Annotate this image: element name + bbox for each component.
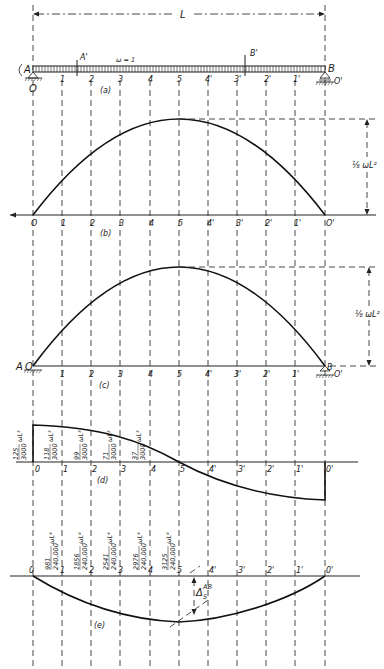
svg-text:4': 4': [205, 75, 212, 84]
svg-text:3': 3': [238, 566, 245, 575]
panel-a-beam: A' B' ω = 1 A B O' O 1 2 3 4 5 4' 3' 2' …: [19, 49, 343, 95]
svg-text:0: 0: [29, 566, 34, 575]
svg-text:3: 3: [118, 75, 123, 84]
svg-text:37: 37: [131, 451, 139, 460]
svg-text:4': 4': [209, 465, 216, 474]
svg-text:125: 125: [12, 448, 20, 460]
panel-d-slope-diagram: 0 1 2 3 4 5 4' 3' 2' 1' 0' (d) 3000 125 …: [12, 425, 359, 500]
caption-c: (c): [99, 381, 110, 390]
deflection-value-2: 240,000 1856 ωL⁴: [73, 532, 90, 570]
station-o-prime-a: O': [334, 77, 343, 86]
dim-arrow-up-icon: [192, 577, 197, 583]
svg-text:5: 5: [180, 465, 185, 474]
svg-text:2': 2': [265, 219, 272, 228]
panel-e-deflection-diagram: Δ AB 5 0 1 2 3 4 5 4' 3' 2' 1' 0' (e) 24…: [10, 532, 360, 630]
svg-text:ωL³: ωL³: [16, 430, 24, 442]
svg-text:5: 5: [177, 566, 182, 575]
station-o-a: O: [29, 83, 37, 94]
svg-text:2': 2': [267, 465, 274, 474]
svg-text:2': 2': [267, 566, 274, 575]
svg-text:1': 1': [296, 566, 303, 575]
slope-value-3: 3000 71 ωL³: [102, 430, 119, 460]
b-prime-label: B': [250, 49, 258, 58]
svg-text:4: 4: [149, 219, 154, 228]
svg-text:4: 4: [151, 465, 156, 474]
svg-text:2': 2': [264, 75, 271, 84]
svg-text:3: 3: [118, 370, 123, 379]
svg-text:5: 5: [177, 370, 182, 379]
svg-text:O': O': [334, 370, 343, 379]
svg-text:2: 2: [90, 219, 95, 228]
support-b-label: B: [328, 63, 335, 74]
svg-text:ωL³: ωL³: [77, 430, 85, 442]
arrow-left-icon: [33, 12, 39, 17]
svg-text:2: 2: [89, 75, 94, 84]
svg-text:4': 4': [209, 566, 216, 575]
arrow-right-icon: [319, 12, 325, 17]
deflection-value-5: 240,000 3125 ωL⁴: [161, 532, 178, 570]
svg-text:ωL⁴: ωL⁴: [136, 532, 144, 544]
svg-text:1: 1: [60, 75, 65, 84]
svg-text:ωL⁴: ωL⁴: [77, 532, 85, 544]
svg-text:3': 3': [236, 219, 243, 228]
svg-text:ωL⁴: ωL⁴: [165, 532, 173, 544]
svg-text:0: 0: [35, 465, 40, 474]
svg-text:3': 3': [234, 75, 241, 84]
svg-text:3: 3: [118, 566, 123, 575]
svg-text:240,000: 240,000: [140, 543, 148, 570]
span-label: L: [180, 9, 186, 20]
svg-text:3125: 3125: [161, 553, 169, 570]
svg-text:0': 0': [326, 465, 333, 474]
dimension-label-b: ⅛ ωL²: [352, 161, 377, 170]
caption-b: (b): [100, 229, 111, 238]
svg-text:3000: 3000: [81, 443, 89, 460]
svg-text:1': 1': [296, 465, 303, 474]
svg-text:2: 2: [89, 370, 94, 379]
delta-label: Δ: [195, 587, 203, 598]
svg-text:4': 4': [205, 370, 212, 379]
svg-text:0': 0': [326, 566, 333, 575]
dimension-label-c: ⅛ ωL²: [355, 310, 380, 319]
support-a-label: A: [23, 64, 31, 75]
deflection-value-4: 240,000 2976 ωL⁴: [132, 532, 149, 570]
svg-text:ωL⁴: ωL⁴: [48, 532, 56, 544]
svg-text:ωL³: ωL³: [47, 430, 55, 442]
svg-text:118: 118: [43, 448, 51, 460]
svg-text:2541: 2541: [102, 553, 110, 570]
svg-text:2976: 2976: [132, 553, 140, 570]
svg-text:5: 5: [178, 219, 183, 228]
label-a-c: A: [15, 361, 23, 372]
svg-text:AB: AB: [202, 583, 212, 591]
moment-arrow-icon: [19, 64, 22, 76]
svg-text:1: 1: [60, 566, 65, 575]
svg-text:5: 5: [177, 75, 182, 84]
dim-arrow-up-icon: [365, 119, 370, 125]
svg-text:240,000: 240,000: [169, 543, 177, 570]
dim-arrow-down-icon: [367, 360, 372, 366]
caption-a: (a): [100, 86, 111, 95]
svg-text:240,000: 240,000: [81, 543, 89, 570]
svg-text:3000: 3000: [139, 443, 147, 460]
svg-text:3: 3: [121, 465, 126, 474]
svg-text:3000: 3000: [20, 443, 28, 460]
svg-text:3000: 3000: [51, 443, 59, 460]
svg-text:O': O': [326, 219, 335, 228]
svg-text:3': 3': [238, 465, 245, 474]
svg-text:1: 1: [60, 370, 65, 379]
beam-conjugate-diagram: L A' B' ω = 1 A: [0, 0, 384, 669]
svg-text:981: 981: [44, 558, 52, 570]
svg-text:99: 99: [73, 452, 81, 460]
svg-text:1856: 1856: [73, 553, 81, 570]
load-label: ω = 1: [116, 56, 135, 64]
svg-text:2: 2: [92, 465, 97, 474]
svg-text:4: 4: [148, 370, 153, 379]
svg-text:ωL³: ωL³: [106, 430, 114, 442]
svg-text:1': 1': [294, 219, 301, 228]
dim-arrow-down-icon: [192, 609, 197, 615]
svg-text:1: 1: [63, 465, 68, 474]
svg-text:5: 5: [203, 593, 207, 601]
dim-arrow-up-icon: [367, 267, 372, 273]
svg-text:4': 4': [207, 219, 214, 228]
svg-text:3': 3': [234, 370, 241, 379]
slope-value-2: 3000 99 ωL³: [73, 430, 90, 460]
